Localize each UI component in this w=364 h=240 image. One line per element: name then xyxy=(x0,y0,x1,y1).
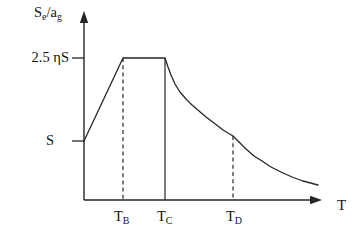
y-axis-label-base2: /a xyxy=(47,4,57,20)
response-spectrum-chart xyxy=(0,0,364,240)
x-tick-label-tc-sub: C xyxy=(166,215,173,226)
x-axis-label: T xyxy=(337,197,346,213)
x-tick-label-td-sub: D xyxy=(235,215,242,226)
y-axis-label: Se/ag xyxy=(34,4,62,25)
y-tick-label-plateau: 2.5 ηS xyxy=(14,49,69,65)
y-axis-label-base1: S xyxy=(34,4,42,20)
y-axis-label-sub2: g xyxy=(57,11,62,22)
x-tick-label-tb-base: T xyxy=(114,208,123,224)
response-spectrum-figure: Se/ag 2.5 ηS S TB TC TD T xyxy=(0,0,364,240)
y-tick-label-s: S xyxy=(46,132,54,148)
x-tick-label-td-base: T xyxy=(226,208,235,224)
x-tick-label-td: TD xyxy=(226,208,242,229)
x-tick-label-tc: TC xyxy=(157,208,173,229)
x-tick-label-tb: TB xyxy=(114,208,130,229)
x-tick-label-tb-sub: B xyxy=(123,215,130,226)
x-tick-label-tc-base: T xyxy=(157,208,166,224)
